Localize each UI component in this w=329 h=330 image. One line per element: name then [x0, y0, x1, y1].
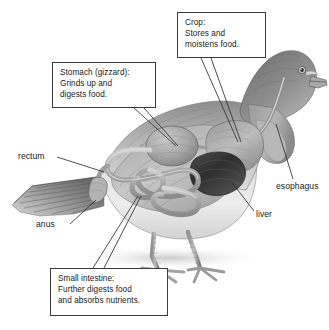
ground-shadow [74, 246, 266, 270]
callout-small-intestine: Small intestine: Further digests food an… [50, 268, 168, 316]
label-rectum: rectum [18, 151, 45, 161]
label-anus: anus [36, 219, 55, 229]
label-liver: liver [256, 209, 272, 219]
callout-stomach: Stomach (gizzard): Grinds up and digests… [52, 62, 156, 108]
gizzard-organ [146, 126, 198, 166]
callout-crop: Crop: Stores and moistens food. [177, 12, 266, 58]
leader-rectum [57, 157, 104, 172]
diagram-page: Crop: Stores and moistens food. Stomach … [0, 0, 329, 330]
label-esophagus: esophagus [276, 181, 319, 191]
